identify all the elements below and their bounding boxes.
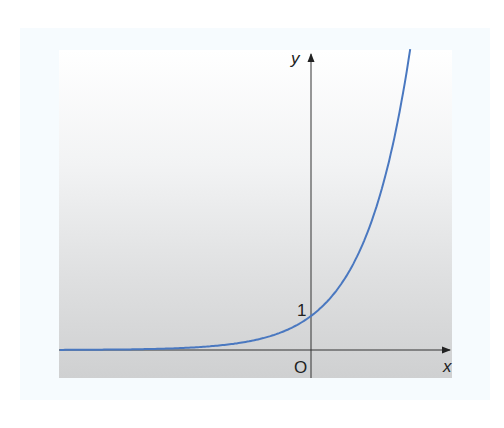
- origin-label: O: [294, 359, 307, 376]
- y-axis-label: y: [291, 50, 300, 67]
- x-axis-label: x: [443, 358, 452, 375]
- exponential-curve: [60, 49, 411, 350]
- y-tick-one-label: 1: [297, 302, 306, 319]
- exponential-chart: [0, 0, 504, 428]
